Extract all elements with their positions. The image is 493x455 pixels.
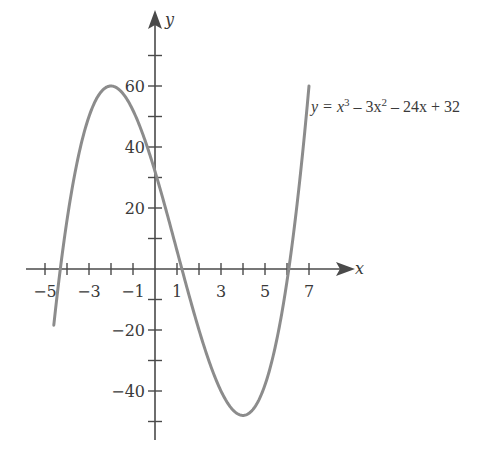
function-plot: −5−3−11357604020−20−40 y x y = x3 – 3x2 …: [0, 0, 493, 455]
y-tick-label: 60: [125, 77, 145, 96]
y-tick-label: 20: [125, 199, 145, 218]
x-tick-label: 5: [260, 282, 270, 301]
x-tick-label: −5: [33, 282, 57, 301]
x-tick-label: −3: [77, 282, 101, 301]
x-tick-label: 1: [172, 282, 182, 301]
x-tick-label: −1: [121, 282, 145, 301]
x-tick-label: 7: [304, 282, 314, 301]
axes: [26, 10, 355, 440]
x-tick-label: 3: [216, 282, 226, 301]
y-tick-label: −40: [111, 382, 145, 401]
equation-label: y = x3 – 3x2 – 24x + 32: [309, 96, 460, 116]
y-tick-label: −20: [111, 321, 145, 340]
y-axis-label: y: [164, 10, 175, 29]
cubic-curve: [54, 86, 309, 415]
y-tick-label: 40: [125, 138, 145, 157]
x-axis-label: x: [355, 259, 364, 278]
